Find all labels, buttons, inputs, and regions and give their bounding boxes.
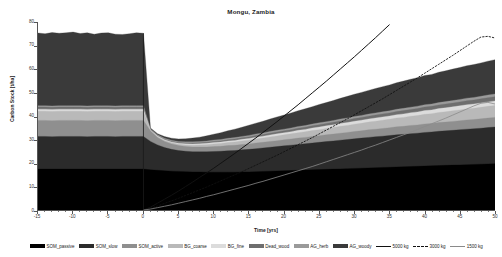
legend-swatch (376, 244, 391, 248)
x-tick-minor (453, 211, 454, 212)
x-tick-label: 50 (485, 214, 502, 219)
x-tick-minor (375, 211, 376, 212)
x-tick-minor (298, 211, 299, 212)
x-tick-minor (171, 211, 172, 212)
x-tick-minor (100, 211, 101, 212)
x-tick-minor (79, 211, 80, 212)
x-axis-title: Time [yrs] (37, 227, 495, 233)
y-axis-title: Carbon Stock [t/ha] (9, 59, 15, 139)
x-tick-label: 20 (274, 214, 294, 219)
x-tick-minor (220, 211, 221, 212)
x-tick-minor (185, 211, 186, 212)
legend-swatch (122, 244, 137, 248)
legend-line-glyph (450, 246, 465, 247)
x-tick-minor (58, 211, 59, 212)
x-tick-minor (115, 211, 116, 212)
legend-label: SOM_active (139, 244, 164, 249)
chart-figure: Mongu, Zambia 01020304050607080 Carbon S… (0, 0, 502, 257)
legend-swatch (333, 244, 348, 248)
legend-label: AG_woody (349, 244, 371, 249)
x-tick-minor (403, 211, 404, 212)
x-tick-minor (255, 211, 256, 212)
x-tick-minor (467, 211, 468, 212)
x-tick-minor (439, 211, 440, 212)
legend-item-5000-kg[interactable]: 5000 kg (376, 244, 409, 249)
legend-item-bg-fine[interactable]: BG_fine (211, 244, 244, 249)
x-tick-minor (396, 211, 397, 212)
x-tick-minor (129, 211, 130, 212)
legend-swatch (30, 244, 45, 248)
plot-svg (38, 22, 495, 210)
legend-label: SOM_passive (47, 244, 75, 249)
x-tick-label: 25 (309, 214, 329, 219)
x-tick-minor (206, 211, 207, 212)
legend-item-ag-woody[interactable]: AG_woody (333, 244, 372, 249)
x-tick-minor (86, 211, 87, 212)
x-tick-minor (340, 211, 341, 212)
legend-label: SOM_slow (96, 244, 118, 249)
y-tick-label: 10 (12, 185, 34, 190)
x-tick-minor (305, 211, 306, 212)
x-tick-minor (199, 211, 200, 212)
y-tick-label: 30 (12, 138, 34, 143)
legend-item-som-passive[interactable]: SOM_passive (30, 244, 75, 249)
x-tick-label: 10 (203, 214, 223, 219)
x-tick-minor (157, 211, 158, 212)
x-tick-minor (481, 211, 482, 212)
legend-swatch (249, 244, 264, 248)
legend-item-dead-wood[interactable]: Dead_wood (249, 244, 290, 249)
legend-label: 5000 kg (392, 244, 408, 249)
legend-item-3000-kg[interactable]: 3000 kg (413, 244, 446, 249)
legend-item-1500-kg[interactable]: 1500 kg (450, 244, 483, 249)
legend-swatch (450, 244, 465, 248)
legend-line-glyph (413, 246, 428, 247)
x-tick-minor (241, 211, 242, 212)
x-tick-label: 30 (344, 214, 364, 219)
x-tick-minor (277, 211, 278, 212)
x-tick-minor (270, 211, 271, 212)
y-tick-label: 50 (12, 91, 34, 96)
y-tick-label: 0 (12, 209, 34, 214)
legend-swatch (413, 244, 428, 248)
legend-label: BG_coarse (184, 244, 207, 249)
x-tick-label: -15 (27, 214, 47, 219)
legend-label: Dead_wood (265, 244, 289, 249)
x-tick-minor (382, 211, 383, 212)
page-title: Mongu, Zambia (0, 8, 502, 15)
legend-item-som-slow[interactable]: SOM_slow (79, 244, 117, 249)
x-tick-minor (333, 211, 334, 212)
x-tick-label: 0 (133, 214, 153, 219)
y-tick-label: 20 (12, 161, 34, 166)
legend-item-ag-herb[interactable]: AG_herb (294, 244, 329, 249)
x-tick-label: 15 (238, 214, 258, 219)
legend-label: 1500 kg (467, 244, 483, 249)
x-tick-label: -10 (62, 214, 82, 219)
legend-label: BG_fine (228, 244, 244, 249)
legend-item-bg-coarse[interactable]: BG_coarse (168, 244, 207, 249)
x-tick-label: 40 (415, 214, 435, 219)
legend-line-glyph (376, 246, 391, 247)
x-tick-minor (192, 211, 193, 212)
x-tick-minor (51, 211, 52, 212)
x-tick-minor (150, 211, 151, 212)
x-tick-label: 5 (168, 214, 188, 219)
x-tick-minor (446, 211, 447, 212)
y-tick-label: 80 (12, 20, 34, 25)
x-tick-minor (164, 211, 165, 212)
legend-swatch (294, 244, 309, 248)
x-tick-minor (361, 211, 362, 212)
x-tick-minor (262, 211, 263, 212)
x-tick-minor (410, 211, 411, 212)
plot-area (37, 22, 495, 211)
x-tick-minor (291, 211, 292, 212)
x-tick-minor (474, 211, 475, 212)
x-tick-minor (122, 211, 123, 212)
x-tick-label: 35 (379, 214, 399, 219)
x-tick-minor (234, 211, 235, 212)
legend-item-som-active[interactable]: SOM_active (122, 244, 163, 249)
x-tick-minor (432, 211, 433, 212)
x-tick-minor (417, 211, 418, 212)
y-tick-label: 60 (12, 67, 34, 72)
x-tick-minor (136, 211, 137, 212)
x-tick-minor (44, 211, 45, 212)
